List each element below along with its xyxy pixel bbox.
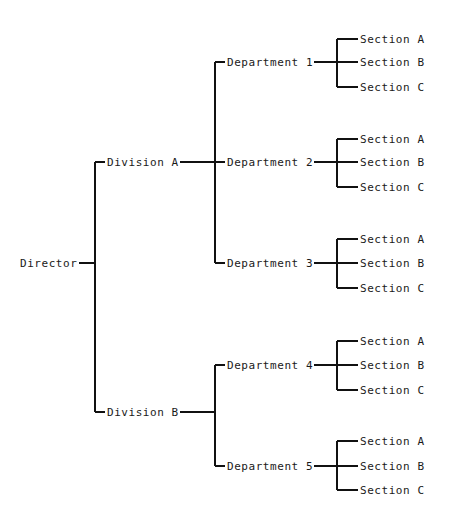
node-department-2[interactable]: Department 2 [227, 157, 313, 168]
node-department-5[interactable]: Department 5 [227, 461, 313, 472]
node-section-1-1[interactable]: Section A [360, 34, 425, 45]
node-section-3-2[interactable]: Section B [360, 258, 425, 269]
node-section-3-1[interactable]: Section A [360, 234, 425, 245]
node-division-1[interactable]: Division A [107, 157, 179, 168]
node-section-5-1[interactable]: Section A [360, 436, 425, 447]
node-section-4-3[interactable]: Section C [360, 385, 425, 396]
node-section-4-1[interactable]: Section A [360, 336, 425, 347]
node-department-3[interactable]: Department 3 [227, 258, 313, 269]
node-section-2-2[interactable]: Section B [360, 157, 425, 168]
node-department-1[interactable]: Department 1 [227, 57, 313, 68]
node-department-4[interactable]: Department 4 [227, 360, 313, 371]
node-section-4-2[interactable]: Section B [360, 360, 425, 371]
connector-group [79, 39, 358, 490]
node-section-5-2[interactable]: Section B [360, 461, 425, 472]
node-section-3-3[interactable]: Section C [360, 283, 425, 294]
node-director[interactable]: Director [20, 258, 77, 269]
node-division-2[interactable]: Division B [107, 407, 179, 418]
node-section-5-3[interactable]: Section C [360, 485, 425, 496]
node-section-1-2[interactable]: Section B [360, 57, 425, 68]
node-section-2-1[interactable]: Section A [360, 134, 425, 145]
org-chart-diagram: DirectorDivision ADepartment 1Section AS… [0, 0, 451, 525]
node-section-2-3[interactable]: Section C [360, 182, 425, 193]
node-section-1-3[interactable]: Section C [360, 82, 425, 93]
